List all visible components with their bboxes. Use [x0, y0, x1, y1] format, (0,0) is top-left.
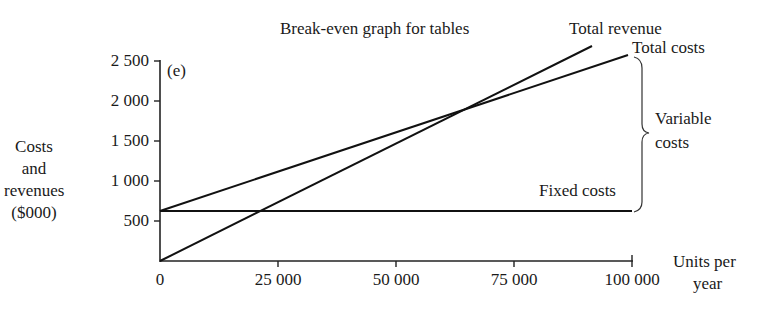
total-revenue-line	[160, 46, 592, 261]
y-tick-label: 1 500	[111, 131, 149, 151]
x-tick-label: 0	[156, 270, 165, 290]
total-costs-label: Total costs	[632, 38, 705, 58]
y-axis-label-line: Costs	[4, 136, 64, 158]
y-tick-label: 2 000	[111, 91, 149, 111]
y-axis-label-line: ($000)	[4, 202, 64, 224]
fixed-costs-label: Fixed costs	[539, 181, 616, 201]
y-axis-label: Costs and revenues ($000)	[4, 136, 64, 224]
y-axis-label-line: and	[4, 158, 64, 180]
y-tick-label: 1 000	[111, 171, 149, 191]
y-axis-label-line: revenues	[4, 180, 64, 202]
x-tick-label: 75 000	[491, 270, 538, 290]
x-tick-label: 50 000	[373, 270, 420, 290]
y-tick-label: 2 500	[111, 51, 149, 71]
variable-costs-label-line2: costs	[655, 133, 689, 153]
variable-costs-brace	[634, 57, 649, 212]
break-even-chart: Break-even graph for tables (e) Total re…	[0, 0, 777, 311]
chart-title: Break-even graph for tables	[280, 19, 469, 39]
variable-costs-label-line1: Variable	[655, 109, 712, 129]
x-tick-label: 25 000	[255, 270, 302, 290]
panel-label: (e)	[167, 61, 186, 81]
x-axis-label-line1: Units per	[673, 252, 736, 272]
y-tick-label: 500	[124, 211, 150, 231]
total-revenue-label: Total revenue	[569, 19, 662, 39]
x-tick-label: 100 000	[604, 270, 659, 290]
y-tick-marks	[154, 61, 160, 221]
x-axis-label-line2: year	[693, 274, 722, 294]
